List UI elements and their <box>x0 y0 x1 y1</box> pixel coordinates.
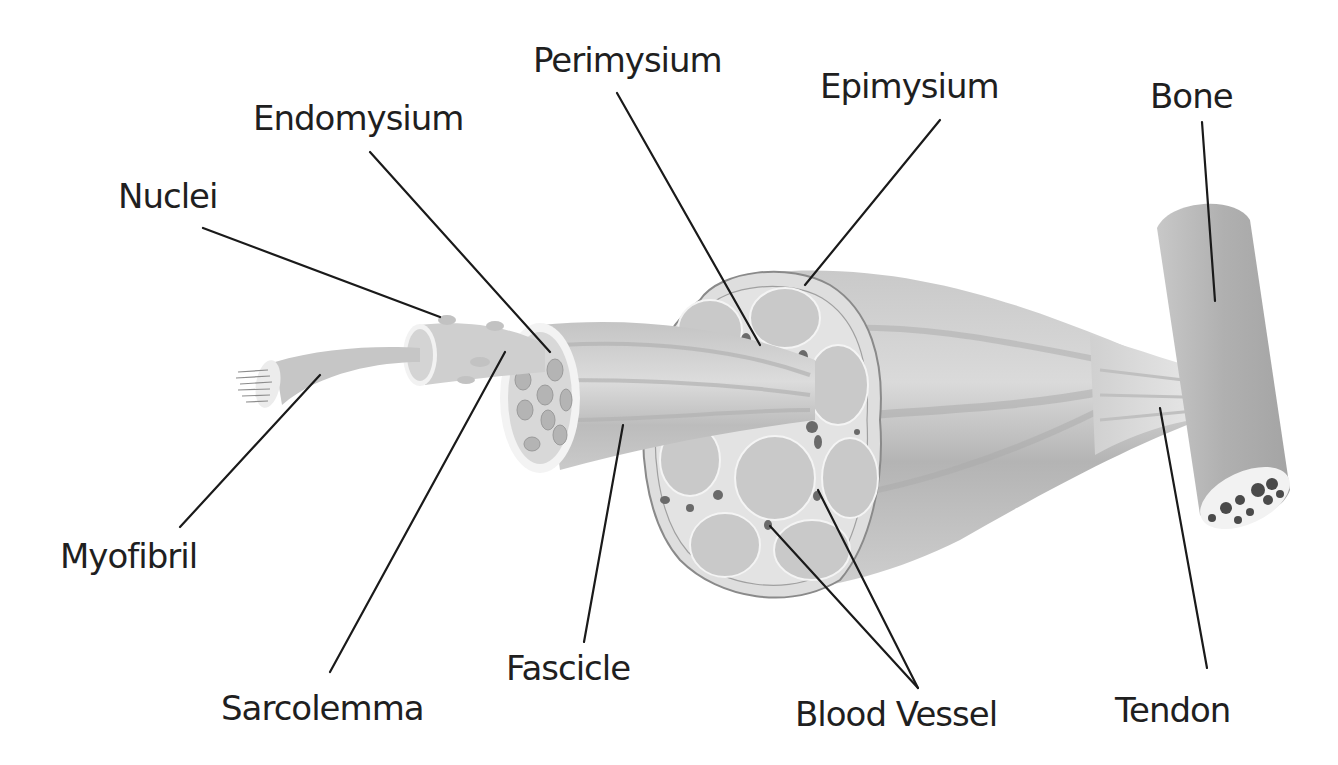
label-tendon: Tendon <box>1114 690 1230 730</box>
leader-endomysium <box>370 152 550 352</box>
label-blood-vessel: Blood Vessel <box>795 694 997 734</box>
label-epimysium: Epimysium <box>820 66 999 106</box>
label-fascicle: Fascicle <box>506 648 630 688</box>
label-nuclei: Nuclei <box>118 176 218 216</box>
label-perimysium: Perimysium <box>533 40 722 80</box>
myofibril <box>236 347 420 410</box>
leader-nuclei <box>203 228 440 317</box>
label-sarcolemma: Sarcolemma <box>221 688 424 728</box>
label-myofibril: Myofibril <box>60 536 197 576</box>
leader-sarcolemma <box>330 352 505 672</box>
muscle-anatomy-diagram: Perimysium Epimysium Bone Endomysium Nuc… <box>0 0 1338 765</box>
leader-myofibril <box>180 375 320 527</box>
label-bone: Bone <box>1150 76 1233 116</box>
label-endomysium: Endomysium <box>253 98 464 138</box>
leader-epimysium <box>805 120 940 285</box>
